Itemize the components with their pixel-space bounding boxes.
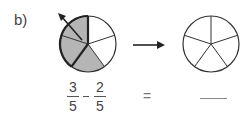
fraction-diagram (0, 0, 246, 117)
left-numerator: 3 (66, 79, 80, 95)
right-denominator: 5 (93, 98, 107, 114)
equals-sign: = (143, 88, 151, 104)
minus-sign (83, 96, 89, 97)
right-fraction-bar (94, 96, 106, 97)
transform-arrow (133, 41, 165, 49)
right-numerator: 2 (93, 79, 107, 95)
left-denominator: 5 (66, 98, 80, 114)
left-pie (58, 13, 116, 72)
left-fraction-bar (67, 96, 79, 97)
right-pie (183, 16, 239, 72)
answer-blank (200, 98, 227, 99)
